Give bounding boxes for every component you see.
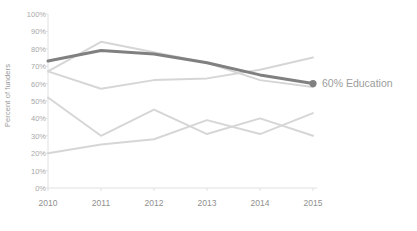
series-line-series-3 xyxy=(48,58,313,89)
education-end-label: 60% Education xyxy=(322,77,393,89)
series-line-series-2 xyxy=(48,42,313,87)
line-chart: Percent of funders 0%10%20%30%40%50%60%7… xyxy=(0,0,417,231)
series-lines xyxy=(48,42,317,153)
axis-lines xyxy=(45,14,317,191)
series-end-marker-dot xyxy=(309,80,316,87)
series-line-series-5 xyxy=(48,113,313,153)
plot-area xyxy=(0,0,417,231)
